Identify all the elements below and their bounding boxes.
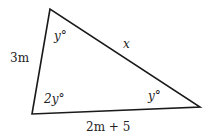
- angle-bottom-left-label: 2y°: [43, 92, 64, 106]
- side-bottom-label: 2m + 5: [86, 120, 130, 134]
- triangle-diagram: 3m x 2m + 5 y° 2y° y°: [0, 0, 209, 139]
- angle-right-label: y°: [147, 89, 161, 103]
- angle-top-label: y°: [53, 29, 67, 43]
- side-top-right-label: x: [123, 37, 130, 51]
- side-left-label: 3m: [10, 51, 30, 65]
